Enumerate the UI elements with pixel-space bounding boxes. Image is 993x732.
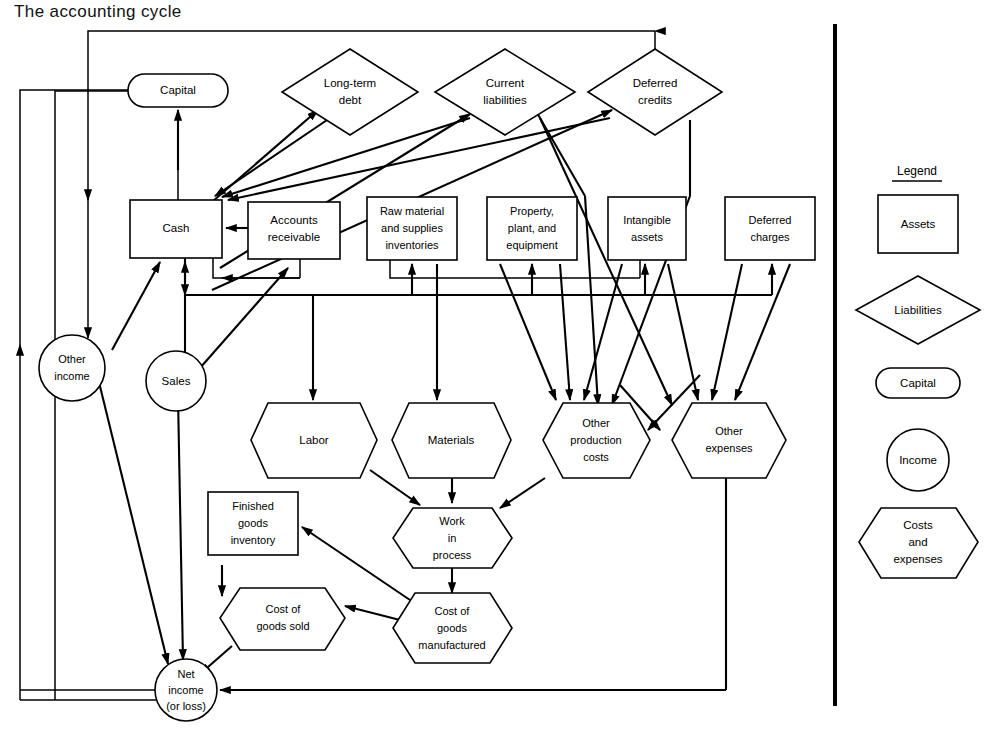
node-cogm-label-1: Cost of bbox=[435, 605, 471, 617]
node-cogm-label-2: goods bbox=[437, 622, 467, 634]
edge-sales-to-accounts-receivable bbox=[200, 268, 288, 368]
node-cogm-label-3: manufactured bbox=[418, 639, 485, 651]
node-raw-material-label-2: and supplies bbox=[381, 222, 443, 234]
node-production-costs-label-3: costs bbox=[583, 451, 609, 463]
node-intangible-label-1: Intangible bbox=[623, 214, 671, 226]
node-cogs-label-1: Cost of bbox=[266, 603, 302, 615]
node-accounts-receivable[interactable]: Accounts receivable bbox=[248, 202, 340, 259]
node-net-income-label-1: Net bbox=[177, 668, 194, 680]
legend-item-liabilities-label: Liabilities bbox=[894, 304, 942, 316]
node-capital[interactable]: Capital bbox=[128, 74, 228, 107]
node-net-income-label-3: (or loss) bbox=[166, 700, 206, 712]
legend-item-costs-label-3: expenses bbox=[893, 553, 942, 565]
edge-intangible-to-other-expenses bbox=[668, 264, 698, 400]
legend-item-income: Income bbox=[887, 429, 949, 491]
node-wip-label-2: in bbox=[448, 532, 457, 544]
node-finished-goods-label-2: goods bbox=[238, 517, 268, 529]
node-capital-label: Capital bbox=[160, 84, 196, 96]
legend-item-capital: Capital bbox=[876, 368, 960, 398]
legend-item-costs-label-1: Costs bbox=[903, 519, 933, 531]
edge-cogm-to-cogs bbox=[345, 606, 400, 620]
node-other-income-label-2: income bbox=[54, 370, 89, 382]
node-other-production-costs[interactable]: Other production costs bbox=[543, 403, 650, 478]
edge-secondary-bus bbox=[390, 258, 640, 278]
edge-deferred-charges-to-other-expenses-2 bbox=[735, 264, 790, 400]
legend-heading: Legend bbox=[897, 164, 937, 178]
node-raw-material-label-3: inventories bbox=[385, 239, 439, 251]
node-sales-label: Sales bbox=[162, 375, 191, 387]
node-deferred-charges-label-2: charges bbox=[750, 231, 790, 243]
legend-item-costs-and-expenses: Costs and expenses bbox=[859, 508, 978, 578]
node-labor-label: Labor bbox=[299, 434, 329, 446]
node-wip-label-3: process bbox=[433, 549, 472, 561]
node-cash[interactable]: Cash bbox=[130, 200, 222, 258]
legend-item-capital-label: Capital bbox=[900, 377, 936, 389]
node-property-plant-equipment[interactable]: Property, plant, and equipment bbox=[487, 197, 577, 260]
node-production-costs-label-2: production bbox=[570, 434, 621, 446]
node-accounts-receivable-label-1: Accounts bbox=[270, 214, 318, 226]
edge-left-return-to-capital bbox=[20, 90, 128, 345]
edge-other-income-to-cash bbox=[112, 262, 160, 350]
connector-layer bbox=[20, 31, 790, 700]
node-deferred-charges-label-1: Deferred bbox=[749, 214, 792, 226]
node-other-income-label-1: Other bbox=[58, 353, 86, 365]
node-finished-goods-inventory[interactable]: Finished goods inventory bbox=[208, 492, 298, 555]
node-cost-of-goods-sold[interactable]: Cost of goods sold bbox=[220, 588, 345, 650]
node-work-in-process[interactable]: Work in process bbox=[393, 508, 512, 568]
edge-other-income-to-net-income bbox=[96, 370, 168, 664]
node-wip-label-1: Work bbox=[439, 515, 465, 527]
node-intangible-assets[interactable]: Intangible assets bbox=[608, 197, 686, 260]
node-cash-label: Cash bbox=[163, 222, 190, 234]
node-net-income[interactable]: Net income (or loss) bbox=[155, 659, 217, 721]
node-long-term-debt-label-1: Long-term bbox=[324, 77, 376, 89]
edge-deferred-credits-to-cash bbox=[228, 118, 610, 200]
node-intangible-label-2: assets bbox=[631, 231, 663, 243]
node-other-expenses[interactable]: Other expenses bbox=[672, 403, 786, 478]
node-property-label-1: Property, bbox=[510, 205, 554, 217]
node-current-liabilities-label-1: Current bbox=[486, 77, 525, 89]
node-property-label-2: plant, and bbox=[508, 222, 556, 234]
edge-production-costs-to-wip bbox=[500, 478, 545, 508]
node-materials-label: Materials bbox=[428, 434, 475, 446]
node-deferred-charges[interactable]: Deferred charges bbox=[725, 197, 815, 260]
node-layer: Capital Long-term debt Current liabiliti… bbox=[39, 49, 815, 721]
edge-property-to-production-costs bbox=[560, 264, 570, 400]
diagram-canvas: The accounting cycle bbox=[0, 0, 993, 732]
node-raw-material[interactable]: Raw material and supplies inventories bbox=[367, 197, 457, 260]
node-other-expenses-label-1: Other bbox=[715, 425, 743, 437]
node-net-income-label-2: income bbox=[168, 684, 203, 696]
accounting-cycle-diagram: Capital Long-term debt Current liabiliti… bbox=[0, 0, 993, 732]
node-finished-goods-label-3: inventory bbox=[231, 534, 276, 546]
node-sales[interactable]: Sales bbox=[146, 351, 206, 411]
node-deferred-credits-label-2: credits bbox=[638, 94, 672, 106]
node-other-expenses-label-2: expenses bbox=[705, 442, 753, 454]
node-current-liabilities-label-2: liabilities bbox=[483, 94, 527, 106]
node-production-costs-label-1: Other bbox=[582, 417, 610, 429]
legend-item-income-label: Income bbox=[899, 454, 937, 466]
legend: Legend Assets Liabilities Capital Income bbox=[856, 164, 980, 578]
node-materials[interactable]: Materials bbox=[392, 403, 511, 478]
edge-deferred-charges-to-other-expenses bbox=[712, 264, 742, 400]
node-cost-of-goods-manufactured[interactable]: Cost of goods manufactured bbox=[393, 593, 512, 663]
node-raw-material-label-1: Raw material bbox=[380, 205, 444, 217]
legend-item-assets-label: Assets bbox=[901, 218, 936, 230]
node-long-term-debt-label-2: debt bbox=[339, 94, 362, 106]
edge-sales-to-net-income bbox=[178, 397, 183, 660]
legend-item-liabilities: Liabilities bbox=[856, 276, 980, 344]
node-labor[interactable]: Labor bbox=[251, 403, 377, 478]
edge-property-to-production-costs-2 bbox=[500, 264, 556, 400]
edge-current-liabilities-to-other-expenses bbox=[540, 118, 672, 405]
node-finished-goods-label-1: Finished bbox=[232, 500, 274, 512]
node-other-income[interactable]: Other income bbox=[39, 335, 105, 401]
node-deferred-credits[interactable]: Deferred credits bbox=[588, 49, 722, 135]
node-cogs-label-2: goods sold bbox=[256, 620, 309, 632]
node-property-label-3: equipment bbox=[506, 239, 557, 251]
node-deferred-credits-label-1: Deferred bbox=[633, 77, 678, 89]
node-accounts-receivable-label-2: receivable bbox=[268, 231, 320, 243]
legend-item-costs-label-2: and bbox=[908, 536, 927, 548]
node-long-term-debt[interactable]: Long-term debt bbox=[282, 49, 418, 135]
legend-item-assets: Assets bbox=[878, 195, 958, 253]
